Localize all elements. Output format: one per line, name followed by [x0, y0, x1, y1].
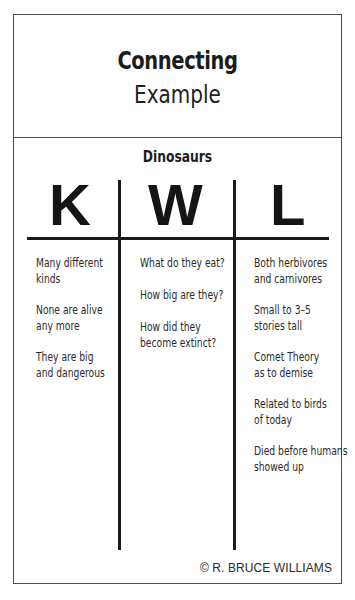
list-item: Died before humans showed up	[254, 443, 354, 475]
page-title: Connecting	[50, 46, 305, 76]
list-item: They are big and dangerous	[36, 349, 136, 381]
header-rule	[27, 237, 329, 240]
list-item: Both herbivores and carnivores	[254, 255, 354, 287]
column-header-know: K	[49, 175, 91, 235]
list-item: Comet Theory as to demise	[254, 349, 354, 381]
column-want: What do they eat? How big are they? How …	[140, 255, 240, 367]
list-item: Many different kinds	[36, 255, 136, 287]
column-know: Many different kinds None are alive any …	[36, 255, 136, 396]
list-item: How big are they?	[140, 287, 240, 303]
list-item: None are alive any more	[36, 302, 136, 334]
copyright-notice: © R. BRUCE WILLIAMS	[200, 560, 332, 576]
column-learned: Both herbivores and carnivores Small to …	[254, 255, 354, 490]
page-subtitle: Example	[47, 80, 309, 110]
list-item: Related to birds of today	[254, 396, 354, 428]
list-item: Small to 3–5 stories tall	[254, 302, 354, 334]
column-header-learned: L	[270, 175, 305, 235]
list-item: How did they become extinct?	[140, 319, 240, 351]
list-item: What do they eat?	[140, 255, 240, 271]
title-box: Connecting Example	[14, 15, 341, 138]
topic-heading: Dinosaurs	[43, 147, 311, 167]
kwl-chart-frame: Connecting Example Dinosaurs K W L Many …	[13, 14, 342, 584]
column-header-want: W	[148, 175, 203, 235]
